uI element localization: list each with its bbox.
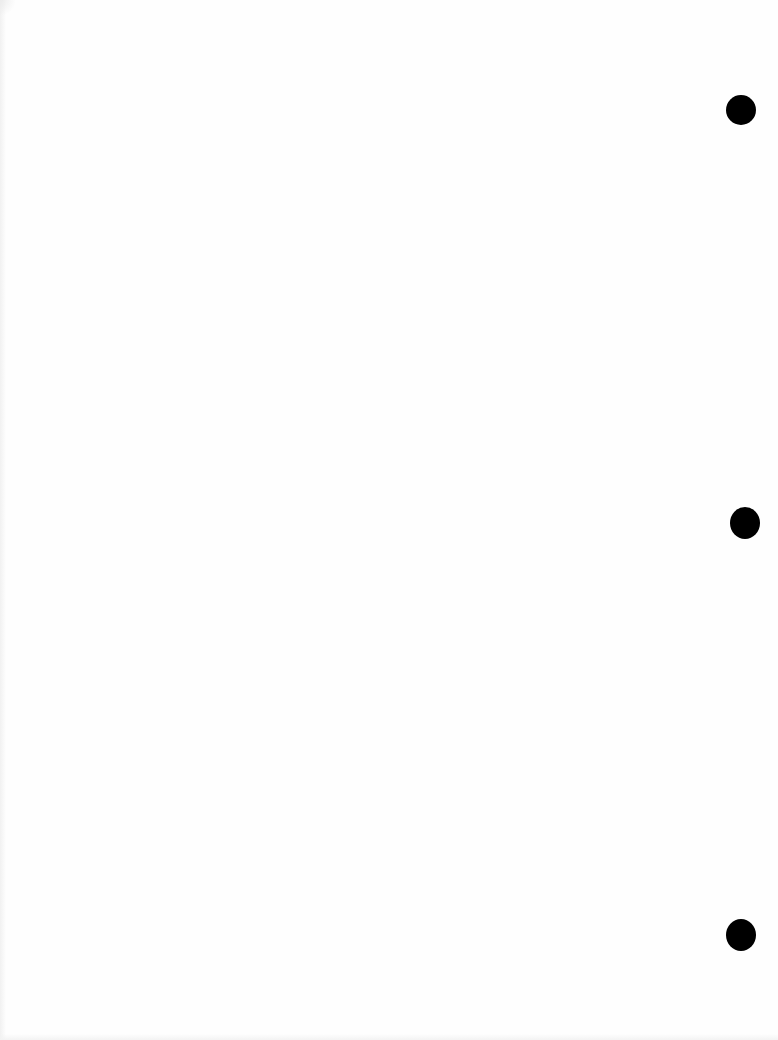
blank-page [0, 0, 778, 1040]
page-corner-shadow [0, 0, 16, 16]
page-left-edge-shadow [0, 0, 6, 1040]
page-bottom-edge-shadow [0, 1034, 778, 1040]
punch-hole [730, 507, 760, 539]
punch-hole [726, 95, 756, 125]
punch-hole [726, 919, 756, 951]
